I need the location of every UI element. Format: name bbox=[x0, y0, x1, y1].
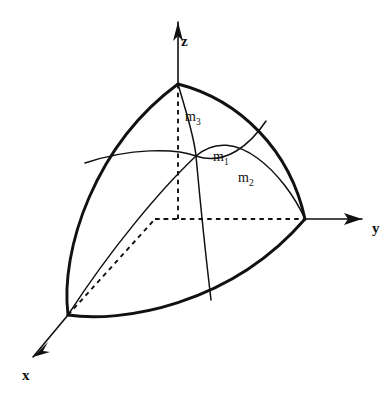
m2-label-base: m bbox=[238, 170, 249, 185]
m1-label-subscript: 1 bbox=[224, 157, 229, 167]
spherical-octant-figure: x y z m1 m2 m3 bbox=[0, 0, 392, 398]
figure-canvas: x y z m1 m2 m3 bbox=[0, 0, 392, 398]
m3-label-base: m bbox=[185, 109, 196, 124]
upper-right-boundary-arc bbox=[178, 84, 305, 219]
x-axis-line bbox=[33, 315, 68, 357]
m2-label-subscript: 2 bbox=[249, 178, 254, 188]
diagonal-hidden-edge bbox=[68, 219, 155, 315]
z-axis-label: z bbox=[181, 33, 188, 49]
bottom-boundary-arc bbox=[68, 219, 305, 317]
m1-label: m1 bbox=[213, 149, 229, 167]
left-boundary-arc bbox=[67, 84, 178, 315]
m2-label: m2 bbox=[238, 170, 254, 188]
m1-label-base: m bbox=[213, 149, 224, 164]
m3-label-subscript: 3 bbox=[196, 117, 201, 127]
axes-group bbox=[33, 22, 362, 357]
x-axis-label: x bbox=[22, 367, 30, 383]
m3-label: m3 bbox=[185, 109, 201, 127]
y-axis-label: y bbox=[372, 220, 380, 236]
x-axis-arrowhead bbox=[33, 342, 50, 357]
